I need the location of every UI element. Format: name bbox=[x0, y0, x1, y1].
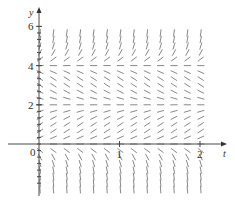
slope-segment bbox=[171, 83, 176, 87]
slope-segment bbox=[51, 116, 57, 119]
slope-segment bbox=[53, 173, 54, 179]
slope-segment bbox=[91, 116, 97, 119]
slope-segment bbox=[66, 180, 67, 186]
slope-segment bbox=[52, 160, 54, 166]
slope-segment bbox=[131, 77, 136, 81]
slope-segment bbox=[107, 173, 108, 179]
slope-segment bbox=[157, 97, 163, 99]
slope-segment bbox=[105, 154, 108, 160]
slope-segment bbox=[93, 167, 94, 173]
slope-segment bbox=[64, 97, 70, 99]
x-axis-arrow-icon bbox=[221, 142, 227, 147]
slope-segment bbox=[200, 180, 201, 186]
slope-segment bbox=[105, 50, 108, 56]
slope-segment bbox=[173, 43, 175, 49]
slope-segment bbox=[91, 83, 96, 87]
slope-segment bbox=[51, 57, 56, 61]
slope-segment bbox=[147, 180, 148, 186]
slope-segment bbox=[198, 71, 204, 74]
slope-segment bbox=[158, 83, 163, 87]
slope-segment bbox=[64, 116, 70, 119]
slope-segment bbox=[64, 129, 69, 133]
slope-segment bbox=[64, 149, 69, 153]
slope-segment bbox=[66, 167, 67, 173]
slope-segment bbox=[198, 97, 204, 99]
slope-segment bbox=[185, 149, 190, 153]
slope-segment bbox=[145, 149, 150, 153]
slope-segment bbox=[131, 149, 136, 153]
slope-segment bbox=[119, 50, 122, 56]
slope-segment bbox=[77, 97, 83, 99]
slope-segment bbox=[131, 83, 136, 87]
slope-segment bbox=[133, 160, 135, 166]
slope-segment bbox=[185, 90, 191, 93]
slope-segment bbox=[64, 57, 69, 61]
slope-segment bbox=[132, 154, 135, 160]
slope-segment bbox=[186, 154, 189, 160]
slope-segment bbox=[53, 36, 54, 42]
slope-segment bbox=[65, 154, 68, 160]
slope-segment bbox=[158, 123, 163, 127]
slope-segment bbox=[144, 97, 150, 99]
x-tick-label: 2 bbox=[197, 148, 203, 160]
y-tick-label: 4 bbox=[28, 60, 34, 72]
slope-segment bbox=[119, 43, 121, 49]
slope-segment bbox=[93, 180, 94, 186]
slope-segment bbox=[131, 116, 137, 119]
slope-segment bbox=[131, 110, 137, 112]
slope-segment bbox=[51, 149, 56, 153]
slope-segment bbox=[171, 90, 177, 93]
slope-segment bbox=[120, 173, 121, 179]
slope-segment bbox=[185, 116, 191, 119]
slope-segment bbox=[104, 110, 110, 112]
slope-segment bbox=[198, 77, 203, 81]
slope-segment bbox=[131, 123, 136, 127]
slope-segment bbox=[79, 43, 81, 49]
slope-segment bbox=[77, 123, 82, 127]
slope-segment bbox=[64, 136, 70, 139]
slope-segment bbox=[50, 71, 56, 74]
slope-segment bbox=[200, 36, 201, 42]
slope-segment bbox=[173, 167, 174, 173]
slope-segment bbox=[144, 129, 149, 133]
slope-segment bbox=[91, 71, 97, 74]
slope-segment bbox=[104, 116, 110, 119]
slope-segment bbox=[131, 57, 136, 61]
slope-segment bbox=[104, 123, 109, 127]
slope-segment bbox=[158, 136, 164, 139]
slope-segment bbox=[200, 173, 201, 179]
slope-segment bbox=[120, 36, 121, 42]
slope-segment bbox=[80, 36, 81, 42]
slope-segment bbox=[187, 180, 188, 186]
slope-segment bbox=[92, 50, 95, 56]
slope-segment bbox=[90, 97, 96, 99]
slope-segment bbox=[160, 43, 162, 49]
slope-segment bbox=[198, 83, 203, 87]
slope-segment bbox=[187, 167, 188, 173]
y-tick-label: 6 bbox=[28, 20, 34, 32]
slope-segment bbox=[117, 110, 123, 112]
slope-segment bbox=[133, 43, 135, 49]
slope-segment bbox=[53, 30, 54, 36]
slope-segment bbox=[117, 136, 123, 139]
slope-segment bbox=[51, 129, 56, 133]
slope-segment bbox=[91, 90, 97, 93]
slope-segment bbox=[80, 173, 81, 179]
slope-segment bbox=[64, 90, 70, 93]
slope-segment bbox=[144, 90, 150, 93]
slope-segment bbox=[147, 36, 148, 42]
slope-segment bbox=[118, 57, 123, 61]
slope-segment bbox=[174, 173, 175, 179]
slope-segment bbox=[147, 167, 148, 173]
slope-segment bbox=[66, 160, 68, 166]
slope-segment bbox=[171, 77, 176, 81]
slope-segment bbox=[184, 110, 190, 112]
slope-segment bbox=[184, 136, 190, 139]
axes bbox=[8, 7, 227, 196]
slope-segment bbox=[91, 129, 96, 133]
slope-segment bbox=[158, 90, 164, 93]
slope-segment bbox=[133, 36, 134, 42]
slope-segment bbox=[159, 50, 162, 56]
slope-segment bbox=[104, 136, 110, 139]
slope-segment bbox=[118, 83, 123, 87]
